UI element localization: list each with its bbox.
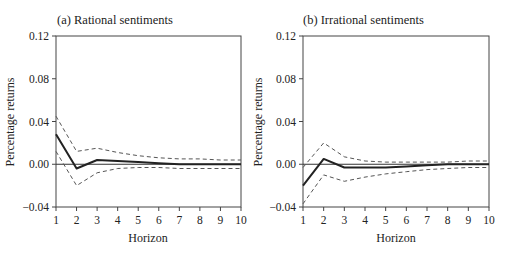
- panel-b-xlabel: Horizon: [376, 231, 415, 245]
- panel-a-plot-area: 0.120.080.040.00−0.0412345678910: [22, 30, 247, 226]
- panel-b-lower-confidence-band: [303, 168, 489, 204]
- panel-b-plot-area: 0.120.080.040.00−0.0412345678910: [269, 30, 495, 226]
- panel-b-xtick-label: 5: [383, 214, 389, 226]
- panel-a-ytick-label: 0.08: [29, 73, 49, 85]
- panel-b-ytick-label: 0.08: [276, 73, 296, 85]
- panel-b-irrational: (b) Irrational sentiments Horizon Percen…: [251, 13, 495, 245]
- panel-a-impulse-response: [56, 134, 241, 168]
- panel-b-xtick-label: 7: [424, 214, 430, 226]
- panel-a-xtick-label: 3: [94, 214, 100, 226]
- panel-b-xtick-label: 4: [362, 214, 368, 226]
- panel-b-ytick-label: 0.12: [276, 30, 296, 42]
- panel-a-ytick-label: 0.12: [29, 30, 49, 42]
- panel-b-xtick-label: 10: [483, 214, 495, 226]
- panel-a-xtick-label: 5: [135, 214, 141, 226]
- panel-a-ytick-label: 0.04: [29, 116, 49, 128]
- panel-a-xtick-label: 1: [53, 214, 59, 226]
- panel-a-ytick-label: 0.00: [29, 158, 49, 170]
- panel-b-xtick-label: 6: [403, 214, 409, 226]
- panel-a-xtick-label: 6: [156, 214, 162, 226]
- panel-b-title: (b) Irrational sentiments: [303, 13, 424, 27]
- panel-a-frame: [56, 36, 241, 207]
- panel-a-xtick-label: 7: [176, 214, 182, 226]
- panel-b-ytick-label: 0.00: [276, 158, 296, 170]
- panel-b-xtick-label: 1: [300, 214, 306, 226]
- panel-a-xtick-label: 4: [115, 214, 121, 226]
- panel-b-ylabel: Percentage returns: [251, 77, 265, 166]
- panel-a-xtick-label: 9: [218, 214, 224, 226]
- panel-b-xtick-label: 8: [445, 214, 451, 226]
- panel-a-xtick-label: 10: [235, 214, 247, 226]
- panel-a-xtick-label: 2: [74, 214, 80, 226]
- figure: (a) Rational sentiments Horizon Percenta…: [0, 0, 508, 253]
- panel-b-ytick-label: 0.04: [276, 116, 296, 128]
- irf-charts: (a) Rational sentiments Horizon Percenta…: [0, 0, 508, 253]
- panel-a-ytick-label: −0.04: [22, 201, 49, 213]
- panel-b-xtick-label: 3: [341, 214, 347, 226]
- panel-a-title: (a) Rational sentiments: [57, 13, 173, 27]
- panel-b-frame: [303, 36, 489, 207]
- panel-b-impulse-response: [303, 159, 489, 186]
- panel-b-xtick-label: 2: [321, 214, 327, 226]
- panel-a-xlabel: Horizon: [128, 231, 167, 245]
- panel-b-xtick-label: 9: [465, 214, 471, 226]
- panel-b-ytick-label: −0.04: [269, 201, 296, 213]
- panel-a-rational: (a) Rational sentiments Horizon Percenta…: [3, 13, 247, 245]
- panel-a-upper-confidence-band: [56, 116, 241, 160]
- panel-a-xtick-label: 8: [197, 214, 203, 226]
- panel-a-ylabel: Percentage returns: [3, 77, 17, 166]
